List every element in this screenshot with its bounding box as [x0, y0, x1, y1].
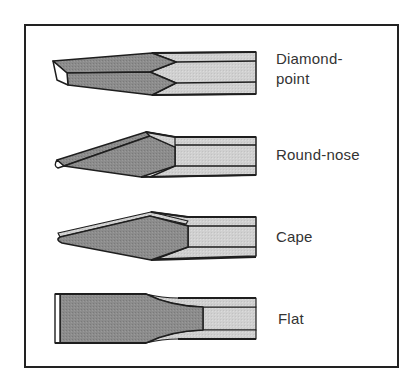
chisel-illustrations: [0, 0, 420, 385]
cape-chisel: [58, 212, 256, 260]
label-cape: Cape: [276, 227, 313, 247]
round-nose-chisel: [55, 132, 256, 177]
label-diamond-point-line2: point: [276, 69, 343, 89]
label-diamond-point: Diamond- point: [276, 49, 343, 89]
label-round-nose: Round-nose: [276, 145, 360, 165]
flat-chisel: [55, 294, 256, 343]
diamond-point-chisel: [53, 52, 256, 95]
label-flat: Flat: [278, 309, 304, 329]
chisel-types-diagram: Diamond- point Round-nose Cape Flat: [0, 0, 420, 385]
label-diamond-point-line1: Diamond-: [276, 49, 343, 69]
